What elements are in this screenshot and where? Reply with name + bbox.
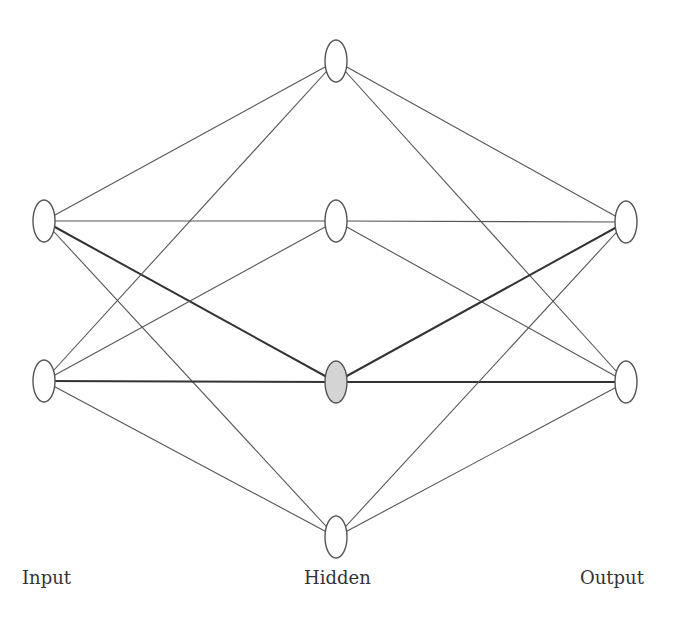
hidden-node-1 — [325, 200, 347, 242]
network-diagram — [0, 0, 674, 626]
output-node-0 — [615, 201, 637, 243]
hidden-layer-label: Hidden — [304, 567, 371, 588]
edge — [336, 61, 626, 222]
input-layer-label: Input — [22, 567, 71, 588]
edge — [44, 221, 336, 537]
hidden-node-0 — [325, 40, 347, 82]
input-node-0 — [33, 200, 55, 242]
edge — [336, 222, 626, 537]
input-node-1 — [33, 360, 55, 402]
nodes — [33, 40, 637, 558]
edge — [44, 61, 336, 221]
edges — [44, 61, 626, 537]
output-layer-label: Output — [580, 567, 644, 588]
edge — [44, 381, 336, 382]
output-node-1 — [615, 361, 637, 403]
hidden-node-2 — [325, 361, 347, 403]
hidden-node-3 — [325, 516, 347, 558]
edge — [336, 221, 626, 222]
edge — [336, 382, 626, 537]
edge — [44, 381, 336, 537]
